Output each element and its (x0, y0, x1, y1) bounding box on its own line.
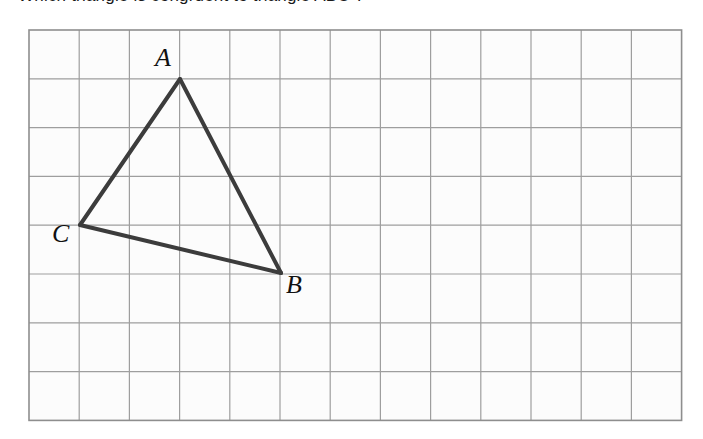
triangle-figure: ABC (0, 0, 703, 439)
vertex-label-a: A (155, 45, 171, 71)
grid-and-triangle-svg (0, 0, 703, 439)
vertex-label-b: B (286, 272, 302, 298)
vertex-label-c: C (52, 221, 69, 247)
